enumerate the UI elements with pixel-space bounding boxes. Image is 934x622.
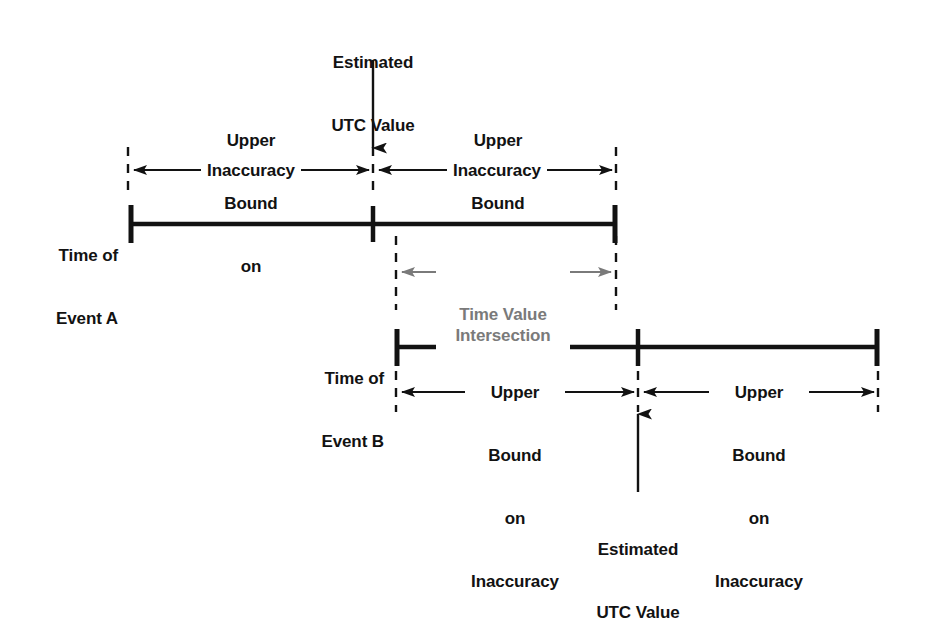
time-of-event-b-label: Time of Event B (271, 326, 384, 494)
time-value-intersection-label-2: Intersection (436, 283, 570, 388)
bound-a-right-line2: Bound (428, 193, 568, 214)
time-of-event-a-line2: Event A (5, 308, 118, 329)
estimated-utc-top-line1: Estimated (283, 52, 463, 73)
estimated-utc-value-bottom-label: Estimated UTC Value (548, 497, 728, 622)
time-of-event-a-label: Time of Event A (5, 203, 118, 371)
bound-a-left-label: Upper Bound on (181, 88, 321, 319)
time-of-event-b-line1: Time of (271, 368, 384, 389)
bound-a-left-line1: Upper (181, 130, 321, 151)
bound-b-right-inline-label: Upper (709, 382, 809, 403)
estimated-utc-bottom-line1: Estimated (548, 539, 728, 560)
bound-a-right-line1: Upper (428, 130, 568, 151)
bound-b-right-line2: Bound (699, 445, 819, 466)
bound-a-right-inline-label: Inaccuracy (447, 160, 547, 181)
intersection-line2: Intersection (436, 325, 570, 346)
bound-b-left-line2: Bound (455, 445, 575, 466)
estimated-utc-bottom-line2: UTC Value (548, 602, 728, 622)
bound-a-left-inline-label: Inaccuracy (201, 160, 301, 181)
bound-a-left-line3: on (181, 256, 321, 277)
bound-b-left-inline-label: Upper (465, 382, 565, 403)
time-of-event-b-line2: Event B (271, 431, 384, 452)
bound-a-left-line2: Bound (181, 193, 321, 214)
time-of-event-a-line1: Time of (5, 245, 118, 266)
